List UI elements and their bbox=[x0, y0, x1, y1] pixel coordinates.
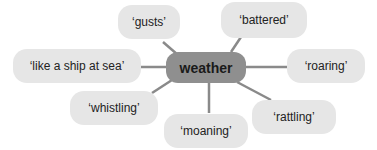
link-rattling bbox=[237, 82, 271, 100]
node-ship: ‘like a ship at sea’ bbox=[13, 49, 141, 83]
center-node-weather: weather bbox=[166, 52, 246, 83]
node-rattling: ‘rattling’ bbox=[252, 100, 336, 134]
node-moaning: ‘moaning’ bbox=[164, 114, 248, 148]
node-battered: ‘battered’ bbox=[221, 2, 307, 38]
link-battered bbox=[231, 37, 241, 52]
node-roaring: ‘roaring’ bbox=[287, 49, 365, 83]
link-whistling bbox=[152, 80, 172, 93]
node-gusts: ‘gusts’ bbox=[118, 5, 180, 39]
node-whistling: ‘whistling’ bbox=[70, 91, 158, 125]
